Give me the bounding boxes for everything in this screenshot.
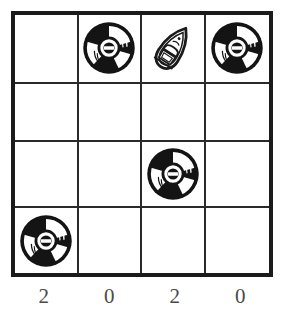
column-label-3: 2 bbox=[142, 281, 208, 311]
column-label-4: 0 bbox=[208, 281, 274, 311]
grid-cell-r4c1[interactable] bbox=[15, 208, 79, 273]
grid-cell-r4c3[interactable] bbox=[142, 208, 206, 273]
column-label-2: 0 bbox=[77, 281, 143, 311]
grid-cell-r3c1[interactable] bbox=[15, 142, 79, 208]
grid-cell-r1c3[interactable] bbox=[142, 15, 206, 84]
grid-cell-r1c2[interactable] bbox=[79, 15, 143, 84]
puzzle-grid bbox=[11, 11, 273, 277]
puzzle-root: 2 0 2 0 bbox=[0, 0, 285, 313]
grid-cell-r4c2[interactable] bbox=[79, 208, 143, 273]
boat-icon bbox=[145, 20, 201, 76]
grid-cell-r4c4[interactable] bbox=[206, 208, 270, 273]
grid-cell-r1c4[interactable] bbox=[206, 15, 270, 84]
cd-icon bbox=[145, 146, 201, 202]
cd-icon bbox=[81, 20, 137, 76]
cd-icon bbox=[18, 213, 74, 269]
grid-cell-r2c1[interactable] bbox=[15, 84, 79, 142]
cd-icon bbox=[209, 20, 265, 76]
grid-cell-r1c1[interactable] bbox=[15, 15, 79, 84]
grid-cell-r2c2[interactable] bbox=[79, 84, 143, 142]
grid-cell-r3c3[interactable] bbox=[142, 142, 206, 208]
column-label-1: 2 bbox=[11, 281, 77, 311]
grid-cell-r3c2[interactable] bbox=[79, 142, 143, 208]
grid-cell-r3c4[interactable] bbox=[206, 142, 270, 208]
column-labels: 2 0 2 0 bbox=[11, 281, 273, 311]
grid-cell-r2c3[interactable] bbox=[142, 84, 206, 142]
grid-cell-r2c4[interactable] bbox=[206, 84, 270, 142]
